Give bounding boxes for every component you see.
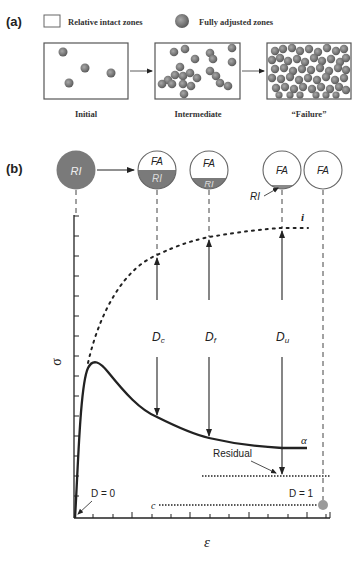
dc-label: Dc <box>152 330 165 345</box>
panel-a: (a) Relative intact zones Fully adjusted… <box>6 14 351 119</box>
svg-text:FA: FA <box>203 158 215 169</box>
svg-text:FA: FA <box>151 156 163 167</box>
axes: σ ε <box>49 215 330 550</box>
state-circle-sliver: FA RI <box>250 151 302 202</box>
stage-label-initial: Initial <box>75 109 98 119</box>
residual-callout-arrow <box>251 461 276 473</box>
panel-b: (b) RI FA RI FA RI FA RI FA <box>6 151 342 551</box>
critical-label: c <box>151 500 156 511</box>
ri-callout-label: RI <box>250 191 260 202</box>
residual-label: Residual <box>213 448 252 459</box>
svg-text:RI: RI <box>152 173 162 184</box>
d-zero-arrow <box>78 501 92 514</box>
svg-text:FA: FA <box>276 165 288 176</box>
x-ticks <box>93 512 330 518</box>
panel-b-label: (b) <box>6 161 23 176</box>
adjusted-zone-legend-label: Fully adjusted zones <box>199 17 274 27</box>
panel-a-label: (a) <box>6 14 22 29</box>
svg-text:FA: FA <box>317 165 329 176</box>
damage-arrows <box>157 231 282 474</box>
stage-box-intermediate <box>155 43 240 99</box>
state-guide-lines <box>76 190 323 500</box>
actual-curve-label: α <box>301 434 307 446</box>
stage-label-failure: “Failure” <box>292 109 327 119</box>
d-one-label: D = 1 <box>289 488 314 499</box>
y-axis-label: σ <box>49 358 64 366</box>
state-circle-intact: RI <box>57 151 96 190</box>
df-label: Df <box>205 330 217 345</box>
failure-point-dot <box>318 500 328 510</box>
damage-labels: Dc Df Du <box>152 330 290 345</box>
svg-text:RI: RI <box>204 178 214 189</box>
state-circle-third: FA RI <box>189 151 229 192</box>
x-axis-label: ε <box>204 534 210 550</box>
d-zero-label: D = 0 <box>91 488 116 499</box>
intact-curve-i <box>88 228 308 363</box>
damage-diagram: (a) Relative intact zones Fully adjusted… <box>0 0 361 563</box>
intact-zone-legend-icon <box>44 15 60 27</box>
state-circle-half: FA RI <box>137 151 177 192</box>
state-circle-full: FA <box>304 151 342 189</box>
stage-label-intermediate: Intermediate <box>174 109 221 119</box>
svg-text:RI: RI <box>71 165 82 177</box>
adjusted-zone-legend-icon <box>175 14 189 28</box>
ri-callout-arrow <box>264 188 278 196</box>
intact-curve-label: i <box>301 211 305 223</box>
intact-zone-legend-label: Relative intact zones <box>68 17 143 27</box>
du-label: Du <box>276 330 290 345</box>
